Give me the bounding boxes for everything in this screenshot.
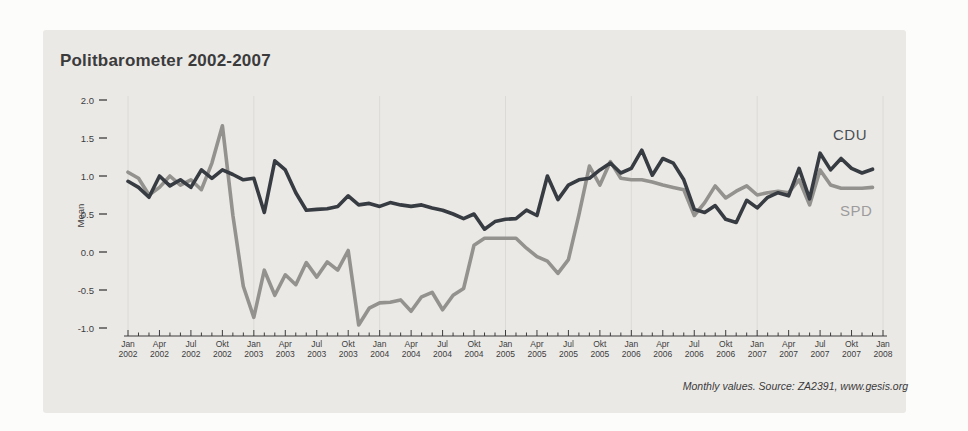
x-tick-year: 2007	[779, 349, 798, 359]
chart-caption: Monthly values. Source: ZA2391, www.gesi…	[683, 380, 908, 392]
x-tick-month: Jul	[185, 339, 196, 349]
chart-canvas: 2.01.51.00.50.0-0.5-1.0Jan2002Apr2002Jul…	[0, 0, 968, 431]
x-tick-month: Apr	[405, 339, 418, 349]
x-tick-month: Jan	[624, 339, 638, 349]
x-tick-month: Apr	[530, 339, 543, 349]
x-tick-year: 2004	[402, 349, 421, 359]
series-label-cdu: CDU	[833, 126, 867, 143]
x-tick-month: Jan	[121, 339, 135, 349]
series-line-cdu	[128, 150, 873, 229]
x-tick-year: 2003	[244, 349, 263, 359]
x-tick-month: Jan	[750, 339, 764, 349]
x-tick-year: 2002	[181, 349, 200, 359]
chart-page: Politbarometer 2002-2007 Mean 2.01.51.00…	[0, 0, 968, 431]
x-tick-year: 2003	[307, 349, 326, 359]
x-tick-month: Okt	[342, 339, 356, 349]
x-tick-year: 2003	[276, 349, 295, 359]
x-tick-year: 2005	[527, 349, 546, 359]
x-tick-year: 2004	[433, 349, 452, 359]
x-tick-year: 2005	[590, 349, 609, 359]
y-tick-label: 0.5	[81, 209, 94, 220]
x-tick-month: Okt	[593, 339, 607, 349]
y-tick-label: 2.0	[81, 95, 94, 106]
y-tick-label: -0.5	[78, 285, 94, 296]
x-tick-year: 2007	[748, 349, 767, 359]
x-tick-month: Jul	[311, 339, 322, 349]
x-tick-month: Okt	[845, 339, 859, 349]
x-tick-month: Jan	[876, 339, 890, 349]
x-tick-month: Okt	[719, 339, 733, 349]
x-tick-year: 2007	[811, 349, 830, 359]
y-tick-label: 1.5	[81, 133, 94, 144]
x-tick-month: Apr	[782, 339, 795, 349]
x-tick-month: Jan	[373, 339, 387, 349]
x-tick-month: Jan	[247, 339, 261, 349]
x-tick-month: Okt	[467, 339, 481, 349]
x-tick-year: 2004	[465, 349, 484, 359]
x-tick-year: 2005	[559, 349, 578, 359]
x-tick-year: 2006	[653, 349, 672, 359]
x-tick-month: Jul	[689, 339, 700, 349]
y-tick-label: 1.0	[81, 171, 94, 182]
x-tick-month: Apr	[656, 339, 669, 349]
x-tick-month: Okt	[216, 339, 230, 349]
y-tick-label: 0.0	[81, 247, 94, 258]
x-tick-year: 2007	[842, 349, 861, 359]
x-tick-month: Apr	[279, 339, 292, 349]
x-tick-year: 2006	[685, 349, 704, 359]
x-tick-year: 2003	[339, 349, 358, 359]
x-tick-year: 2006	[716, 349, 735, 359]
x-tick-year: 2002	[119, 349, 138, 359]
x-tick-month: Jan	[499, 339, 513, 349]
x-tick-year: 2005	[496, 349, 515, 359]
x-tick-month: Jul	[563, 339, 574, 349]
y-tick-label: -1.0	[78, 323, 94, 334]
x-tick-year: 2002	[213, 349, 232, 359]
x-tick-month: Jul	[815, 339, 826, 349]
x-tick-year: 2008	[874, 349, 893, 359]
series-line-spd	[128, 126, 873, 325]
x-tick-month: Jul	[437, 339, 448, 349]
x-tick-year: 2002	[150, 349, 169, 359]
series-label-spd: SPD	[840, 202, 872, 219]
x-tick-year: 2006	[622, 349, 641, 359]
x-tick-year: 2004	[370, 349, 389, 359]
x-tick-month: Apr	[153, 339, 166, 349]
